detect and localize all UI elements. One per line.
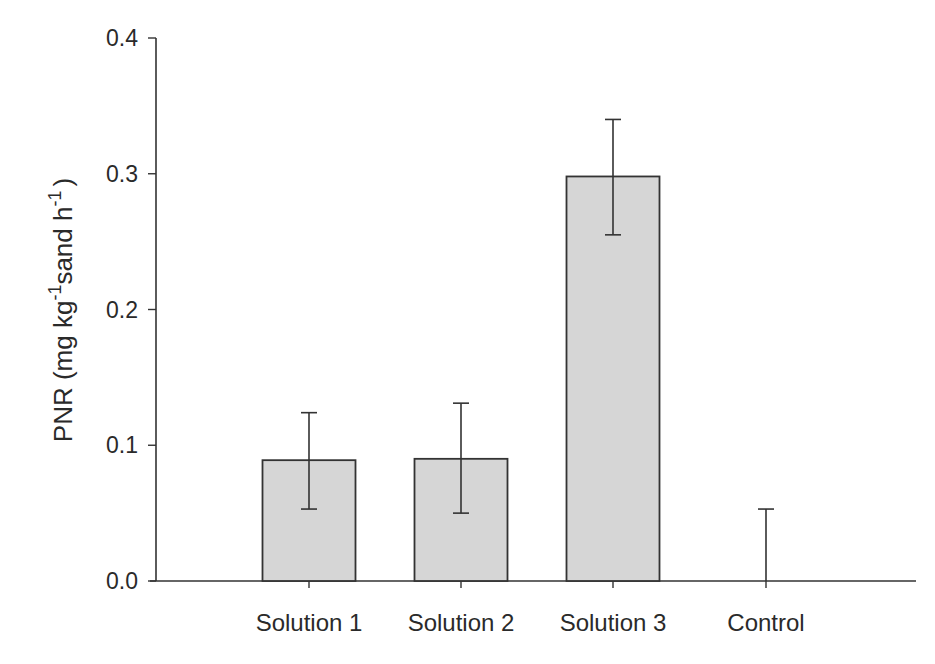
ylabel-pre: PNR (mg kg: [48, 301, 78, 443]
x-axis: [150, 581, 916, 588]
ylabel-sup1: -1: [45, 285, 65, 301]
y-tick-label: 0.0: [106, 568, 138, 594]
category-label: Solution 1: [256, 609, 363, 636]
bar-chart: 0.00.10.20.30.4 Solution 1Solution 2Solu…: [0, 0, 935, 664]
category-label: Solution 3: [560, 609, 667, 636]
error-bars: [301, 119, 774, 581]
y-axis-label: PNR (mg kg-1sand h-1): [45, 178, 78, 442]
category-label: Control: [727, 609, 804, 636]
y-tick-label: 0.3: [106, 161, 138, 187]
y-axis: 0.00.10.20.30.4: [106, 25, 156, 594]
category-labels: Solution 1Solution 2Solution 3Control: [256, 609, 805, 636]
ylabel-sup2: -1: [45, 190, 65, 206]
bar-solution-3: [567, 176, 660, 581]
ylabel-mid: sand h: [48, 207, 78, 285]
category-label: Solution 2: [408, 609, 515, 636]
ylabel-post: ): [48, 178, 78, 187]
y-tick-label: 0.1: [106, 432, 138, 458]
bars: [263, 176, 660, 581]
y-tick-label: 0.4: [106, 25, 138, 51]
y-tick-label: 0.2: [106, 297, 138, 323]
